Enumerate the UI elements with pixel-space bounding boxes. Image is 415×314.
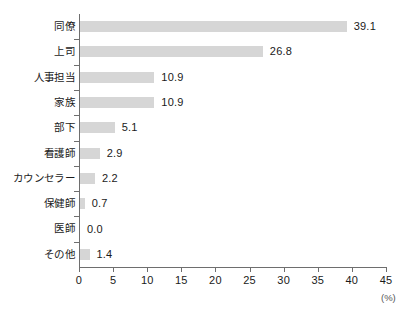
bar bbox=[80, 173, 95, 184]
y-axis-tick bbox=[74, 90, 80, 91]
bar-value-label: 26.8 bbox=[270, 46, 292, 57]
x-axis-tick-mark bbox=[147, 267, 148, 272]
category-label: 人事担当 bbox=[34, 65, 75, 90]
y-axis-tick bbox=[74, 65, 80, 66]
bar bbox=[80, 97, 154, 108]
x-axis-tick-label: 30 bbox=[277, 274, 290, 286]
x-axis-tick-mark bbox=[181, 267, 182, 272]
bar bbox=[80, 122, 115, 133]
x-axis-tick-mark bbox=[284, 267, 285, 272]
bar bbox=[80, 198, 85, 209]
bar-value-label: 10.9 bbox=[161, 97, 183, 108]
bar-value-label: 2.2 bbox=[102, 173, 118, 184]
x-axis-tick-label: 5 bbox=[110, 274, 116, 286]
bar-row: 家族10.9 bbox=[0, 90, 415, 115]
bar-row: その他1.4 bbox=[0, 242, 415, 267]
bar-row: 医師0.0 bbox=[0, 216, 415, 241]
bar-value-label: 10.9 bbox=[161, 72, 183, 83]
category-label: 保健師 bbox=[44, 191, 75, 216]
y-axis-tick bbox=[74, 191, 80, 192]
category-label: カウンセラー bbox=[13, 166, 75, 191]
bar-row: 部下5.1 bbox=[0, 115, 415, 140]
x-axis-tick-mark bbox=[352, 267, 353, 272]
bar-row: 人事担当10.9 bbox=[0, 65, 415, 90]
bar bbox=[80, 46, 263, 57]
bar bbox=[80, 249, 90, 260]
category-label: 医師 bbox=[54, 216, 75, 241]
y-axis-tick bbox=[74, 242, 80, 243]
bar-value-label: 2.9 bbox=[107, 148, 123, 159]
x-axis-tick-mark bbox=[318, 267, 319, 272]
bar-row: 看護師2.9 bbox=[0, 141, 415, 166]
bar-row: カウンセラー2.2 bbox=[0, 166, 415, 191]
category-label: その他 bbox=[44, 242, 75, 267]
x-axis-tick-label: 20 bbox=[209, 274, 222, 286]
x-axis-tick-mark bbox=[386, 267, 387, 272]
category-label: 同僚 bbox=[54, 14, 75, 39]
x-axis-ticks: 051015202530354045 bbox=[0, 267, 415, 297]
x-axis-unit-label: (%) bbox=[381, 292, 396, 303]
y-axis-tick bbox=[74, 141, 80, 142]
x-axis-tick-label: 0 bbox=[76, 274, 82, 286]
bar-rows: 同僚39.1上司26.8人事担当10.9家族10.9部下5.1看護師2.9カウン… bbox=[0, 14, 415, 267]
bar-chart: 同僚39.1上司26.8人事担当10.9家族10.9部下5.1看護師2.9カウン… bbox=[0, 0, 415, 314]
bar-value-label: 0.7 bbox=[92, 198, 108, 209]
x-axis-tick-label: 45 bbox=[380, 274, 393, 286]
category-label: 上司 bbox=[54, 39, 75, 64]
bar bbox=[80, 148, 100, 159]
y-axis-tick bbox=[74, 166, 80, 167]
x-axis-tick-label: 10 bbox=[141, 274, 154, 286]
x-axis-tick-mark bbox=[79, 267, 80, 272]
bar bbox=[80, 72, 154, 83]
x-axis-tick-label: 25 bbox=[243, 274, 256, 286]
bar-row: 同僚39.1 bbox=[0, 14, 415, 39]
bar-row: 上司26.8 bbox=[0, 39, 415, 64]
bar-value-label: 0.0 bbox=[87, 224, 103, 235]
bar-row: 保健師0.7 bbox=[0, 191, 415, 216]
x-axis-tick-label: 40 bbox=[346, 274, 359, 286]
y-axis-tick bbox=[74, 115, 80, 116]
category-label: 部下 bbox=[54, 115, 75, 140]
x-axis-tick-label: 15 bbox=[175, 274, 188, 286]
bar bbox=[80, 21, 347, 32]
bar-value-label: 1.4 bbox=[97, 249, 113, 260]
y-axis-tick bbox=[74, 39, 80, 40]
category-label: 家族 bbox=[54, 90, 75, 115]
bar-value-label: 5.1 bbox=[122, 122, 138, 133]
x-axis-tick-mark bbox=[250, 267, 251, 272]
category-label: 看護師 bbox=[44, 141, 75, 166]
x-axis-tick-mark bbox=[215, 267, 216, 272]
y-axis-tick bbox=[74, 216, 80, 217]
x-axis-tick-mark bbox=[113, 267, 114, 272]
bar-value-label: 39.1 bbox=[354, 21, 376, 32]
x-axis-tick-label: 35 bbox=[311, 274, 324, 286]
